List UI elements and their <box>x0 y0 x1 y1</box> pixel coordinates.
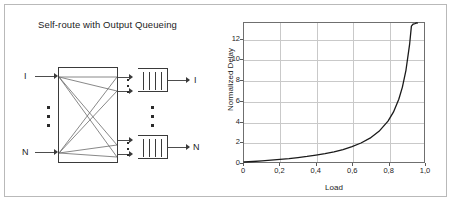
x-tick-mark-0.2 <box>279 163 280 166</box>
figure-root: Self-route with Output Queueing I N <box>0 0 452 202</box>
input-arrow-n <box>54 149 58 155</box>
output-label-n: N <box>193 142 200 152</box>
y-tick-mark-8 <box>240 80 243 81</box>
input-label-i: I <box>24 71 27 81</box>
output-label-i: I <box>194 75 197 85</box>
output-ellipsis-icon <box>151 106 154 133</box>
x-tick-mark-1 <box>425 163 426 166</box>
x-tick-label-0.4: 0,4 <box>303 167 329 175</box>
output-arrow-i <box>186 77 190 83</box>
x-tick-label-1: 1,0 <box>412 167 438 175</box>
y-tick-mark-2 <box>240 142 243 143</box>
input-line-n <box>35 152 56 153</box>
x-tick-mark-0.6 <box>352 163 353 166</box>
output-arrow-n <box>186 144 190 150</box>
input-arrow-i <box>54 73 58 79</box>
crossbar-lines <box>58 67 118 163</box>
input-label-n: N <box>22 147 29 157</box>
fabric-out-ellipsis-top-icon <box>127 79 130 97</box>
x-tick-mark-0.4 <box>316 163 317 166</box>
x-tick-label-0.6: 0,6 <box>339 167 365 175</box>
y-tick-label-2: 2 <box>218 138 240 146</box>
x-tick-label-0.8: 0,8 <box>376 167 402 175</box>
y-tick-mark-12 <box>240 39 243 40</box>
y-tick-label-0: 0 <box>218 159 240 167</box>
x-tick-label-0.2: 0,2 <box>266 167 292 175</box>
input-line-i <box>35 76 56 77</box>
fabric-out-ellipsis-bottom-icon <box>127 142 130 160</box>
x-tick-mark-0 <box>243 163 244 166</box>
plot-area <box>243 22 425 163</box>
delay-curve <box>244 23 424 162</box>
input-ellipsis-icon <box>47 106 50 133</box>
output-queue-bottom <box>138 135 168 159</box>
delay-vs-load-chart: 024681012 00,20,40,60,81,0 Load Normaliz… <box>212 5 447 196</box>
x-axis-title: Load <box>243 183 425 192</box>
x-tick-mark-0.8 <box>389 163 390 166</box>
diagram-title: Self-route with Output Queueing <box>5 19 210 30</box>
y-tick-mark-6 <box>240 101 243 102</box>
y-axis-title: Normalized Delay <box>226 30 235 130</box>
output-queue-top <box>138 68 168 92</box>
x-tick-label-0: 0 <box>230 167 256 175</box>
y-tick-mark-4 <box>240 122 243 123</box>
switch-diagram-panel: Self-route with Output Queueing I N <box>5 5 210 196</box>
y-tick-mark-10 <box>240 59 243 60</box>
